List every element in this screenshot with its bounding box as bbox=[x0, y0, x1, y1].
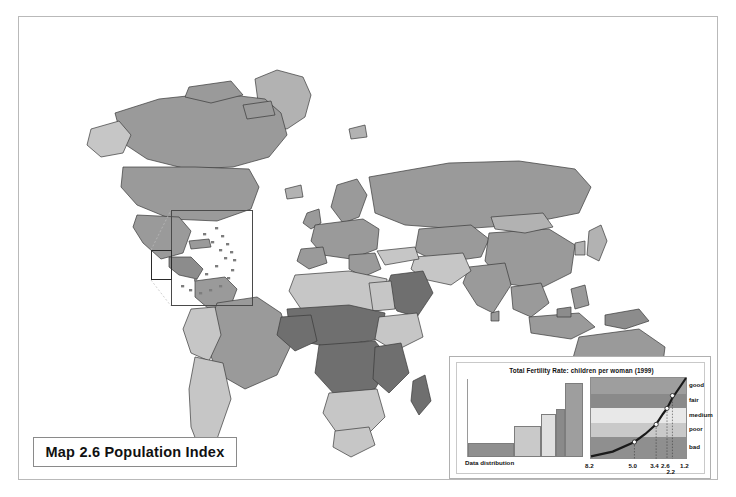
curve-breakpoint-marker[interactable] bbox=[670, 394, 674, 398]
caribbean-source-box bbox=[151, 250, 172, 280]
map-country-region[interactable] bbox=[333, 427, 375, 457]
distribution-step bbox=[541, 414, 557, 457]
map-country-region[interactable] bbox=[557, 307, 571, 317]
curve-breakpoint-marker[interactable] bbox=[632, 440, 636, 444]
curve-breakpoint-marker[interactable] bbox=[665, 406, 669, 410]
page-title: Map 2.6 Population Index bbox=[46, 444, 225, 460]
map-country-region[interactable] bbox=[605, 309, 649, 329]
map-country-region[interactable] bbox=[369, 161, 591, 229]
x-tick-label: 5.0 bbox=[628, 462, 637, 469]
legend-inner-frame: Total Fertility Rate: children per woman… bbox=[456, 362, 705, 474]
caribbean-detail-inset[interactable] bbox=[171, 210, 253, 306]
distribution-step bbox=[565, 383, 583, 457]
inset-lead-line bbox=[151, 280, 171, 306]
distribution-step bbox=[556, 409, 564, 457]
class-label-fair: fair bbox=[689, 396, 699, 403]
curve-breakpoint-marker[interactable] bbox=[654, 422, 658, 426]
map-country-region[interactable] bbox=[571, 285, 589, 309]
distribution-step bbox=[514, 426, 541, 457]
x-tick-label-sub: 2.2 bbox=[666, 468, 675, 475]
curve-line bbox=[591, 378, 686, 456]
data-distribution-chart bbox=[467, 379, 582, 457]
class-label-medium: medium bbox=[689, 411, 713, 418]
map-country-region[interactable] bbox=[369, 281, 395, 311]
map-country-region[interactable] bbox=[331, 179, 367, 223]
map-title-box: Map 2.6 Population Index bbox=[33, 437, 237, 467]
class-label-good: good bbox=[689, 381, 704, 388]
map-country-region[interactable] bbox=[491, 311, 499, 321]
map-country-region[interactable] bbox=[285, 185, 303, 199]
x-tick-label: 3.4 bbox=[650, 462, 659, 469]
legend-title: Total Fertility Rate: children per woman… bbox=[457, 367, 706, 374]
distribution-label: Data distribution bbox=[465, 459, 514, 466]
legend-panel: Total Fertility Rate: children per woman… bbox=[449, 356, 711, 479]
map-country-region[interactable] bbox=[411, 375, 431, 415]
page-frame: Map 2.6 Population Index Total Fertility… bbox=[18, 16, 718, 480]
map-country-region[interactable] bbox=[297, 247, 327, 269]
map-country-region[interactable] bbox=[373, 343, 409, 393]
class-label-poor: poor bbox=[689, 425, 703, 432]
class-label-bad: bad bbox=[689, 443, 700, 450]
distribution-step bbox=[468, 443, 514, 457]
x-tick-label: 8.2 bbox=[585, 462, 594, 469]
map-country-region[interactable] bbox=[511, 283, 549, 317]
x-tick-label: 1.2 bbox=[680, 462, 689, 469]
map-country-region[interactable] bbox=[349, 125, 367, 139]
map-country-region[interactable] bbox=[587, 225, 607, 261]
map-country-region[interactable] bbox=[377, 247, 419, 265]
map-country-region[interactable] bbox=[575, 241, 585, 255]
map-page: Map 2.6 Population Index Total Fertility… bbox=[0, 0, 736, 497]
fertility-curve bbox=[590, 377, 687, 459]
